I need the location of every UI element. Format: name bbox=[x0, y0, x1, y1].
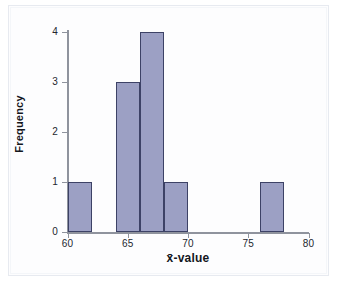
y-axis-tick bbox=[62, 182, 67, 183]
y-axis-title: Frequency bbox=[13, 79, 25, 169]
plot-area: 6065707580 01234 Frequency x̄-value bbox=[0, 0, 337, 286]
x-axis-tick-label: 65 bbox=[115, 238, 141, 249]
x-axis-tick-label: 70 bbox=[175, 238, 201, 249]
y-axis-tick-label: 0 bbox=[40, 226, 58, 237]
histogram-bar bbox=[164, 182, 188, 232]
histogram-figure: 6065707580 01234 Frequency x̄-value bbox=[0, 0, 337, 286]
y-axis-tick bbox=[62, 82, 67, 83]
x-axis-title: x̄-value bbox=[67, 251, 309, 265]
x-axis-tick-label: 80 bbox=[296, 238, 322, 249]
y-axis-tick-label: 1 bbox=[40, 176, 58, 187]
histogram-bar bbox=[140, 32, 164, 232]
y-axis-tick bbox=[62, 232, 67, 233]
y-axis-tick bbox=[62, 32, 67, 33]
histogram-bar bbox=[260, 182, 284, 232]
histogram-bar bbox=[116, 82, 140, 232]
x-axis-tick-label: 60 bbox=[55, 238, 81, 249]
y-axis-tick-label: 4 bbox=[40, 26, 58, 37]
histogram-bar bbox=[68, 182, 92, 232]
y-axis-tick-label: 2 bbox=[40, 126, 58, 137]
x-axis-tick-label: 75 bbox=[235, 238, 261, 249]
y-axis-tick bbox=[62, 132, 67, 133]
y-axis-tick-label: 3 bbox=[40, 76, 58, 87]
